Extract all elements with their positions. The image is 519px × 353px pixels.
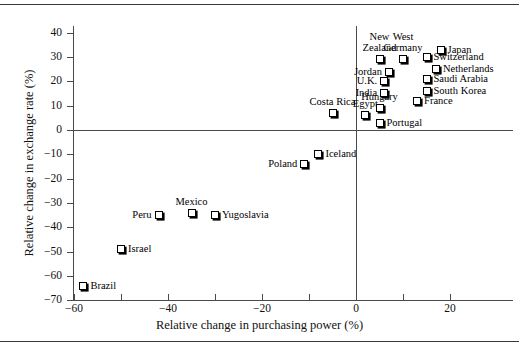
y-axis-title: Relative change in exchange rate (%) xyxy=(22,26,37,300)
y-tick xyxy=(67,81,73,82)
data-point-marker xyxy=(79,282,87,290)
x-tick-label: −60 xyxy=(54,303,94,315)
y-tick xyxy=(67,227,73,228)
x-tick xyxy=(262,294,263,300)
data-point-marker xyxy=(300,160,308,168)
x-tick-label: −40 xyxy=(148,303,188,315)
data-point-marker xyxy=(437,46,445,54)
y-tick xyxy=(67,33,73,34)
data-point-label: Jordan xyxy=(354,66,382,77)
x-tick xyxy=(403,294,404,300)
zero-horizontal-reference-line xyxy=(73,130,513,131)
y-tick xyxy=(67,252,73,253)
data-point-marker xyxy=(329,109,337,117)
data-point-marker xyxy=(413,97,421,105)
x-tick-label: 20 xyxy=(430,303,470,315)
data-point-marker xyxy=(380,77,388,85)
figure-container: −70−60−50−40−30−20−10010203040 −60−40−20… xyxy=(0,0,519,353)
data-point-label: Portugal xyxy=(387,117,423,128)
data-point-marker xyxy=(155,211,163,219)
x-tick xyxy=(121,294,122,300)
data-point-label: Saudi Arabia xyxy=(434,73,489,84)
data-point-marker xyxy=(385,68,393,76)
data-point-label: India xyxy=(356,87,378,98)
data-point-label: Yugoslavia xyxy=(222,209,269,220)
data-point-marker xyxy=(399,55,407,63)
data-point-marker xyxy=(188,209,196,217)
data-point-marker xyxy=(423,87,431,95)
data-point-marker xyxy=(423,53,431,61)
y-tick xyxy=(67,300,73,301)
y-axis-line xyxy=(73,26,74,300)
x-tick xyxy=(215,294,216,300)
data-point-marker xyxy=(376,104,384,112)
y-tick xyxy=(67,203,73,204)
data-point-label: U.K. xyxy=(357,75,377,86)
data-point-label: France xyxy=(424,95,453,106)
x-tick xyxy=(168,294,169,300)
scatter-plot: −70−60−50−40−30−20−10010203040 −60−40−20… xyxy=(0,0,519,353)
y-tick xyxy=(67,154,73,155)
y-tick xyxy=(67,179,73,180)
data-point-label: Peru xyxy=(132,209,151,220)
x-tick-label: 0 xyxy=(336,303,376,315)
x-tick xyxy=(356,294,357,300)
x-axis-title: Relative change in purchasing power (%) xyxy=(0,318,519,333)
data-point-label: Israel xyxy=(128,243,151,254)
data-point-label: Poland xyxy=(268,158,297,169)
data-point-marker xyxy=(432,65,440,73)
data-point-label: Netherlands xyxy=(443,63,494,74)
y-tick xyxy=(67,276,73,277)
data-point-label: Brazil xyxy=(90,280,116,291)
data-point-marker xyxy=(117,245,125,253)
data-point-marker xyxy=(423,75,431,83)
x-axis-line xyxy=(73,300,513,301)
y-tick xyxy=(67,106,73,107)
data-point-label: Iceland xyxy=(325,148,356,159)
x-tick xyxy=(450,294,451,300)
data-point-label: Mexico xyxy=(132,196,252,207)
data-point-marker xyxy=(380,89,388,97)
y-tick xyxy=(67,130,73,131)
y-tick xyxy=(67,57,73,58)
data-point-marker xyxy=(361,111,369,119)
data-point-label: South Korea xyxy=(434,85,487,96)
data-point-marker xyxy=(376,119,384,127)
data-point-marker xyxy=(211,211,219,219)
x-tick-label: −20 xyxy=(242,303,282,315)
data-point-marker xyxy=(314,150,322,158)
data-point-marker xyxy=(376,55,384,63)
data-point-label: Japan xyxy=(448,44,472,55)
x-tick xyxy=(309,294,310,300)
x-tick xyxy=(74,294,75,300)
